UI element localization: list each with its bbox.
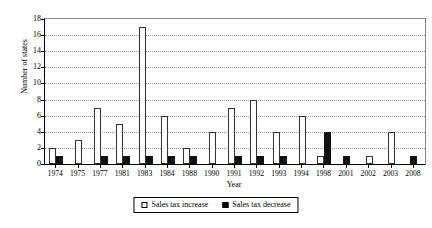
bar-sales-tax-increase	[94, 108, 101, 164]
y-axis-title: Number of states	[20, 7, 29, 127]
x-axis-tick-label: 1981	[111, 169, 133, 178]
x-axis-tick-label: 1994	[290, 169, 312, 178]
bar-sales-tax-increase	[317, 156, 324, 164]
bar-sales-tax-increase	[273, 132, 280, 164]
bar-group	[179, 19, 201, 164]
x-axis-tick-label: 1991	[223, 169, 245, 178]
bar-sales-tax-increase	[366, 156, 373, 164]
bar-group	[403, 19, 425, 164]
bar-sales-tax-increase	[161, 116, 168, 164]
x-axis-tick-label: 2003	[379, 169, 401, 178]
bar-group	[380, 19, 402, 164]
bar-sales-tax-increase	[228, 108, 235, 164]
bar-sales-tax-increase	[209, 132, 216, 164]
x-axis-tick-label: 1975	[66, 169, 88, 178]
bar-group	[269, 19, 291, 164]
bar-sales-tax-increase	[75, 140, 82, 164]
bar-sales-tax-increase	[49, 148, 56, 164]
bar-sales-tax-decrease	[235, 156, 242, 164]
bar-sales-tax-decrease	[101, 156, 108, 164]
x-axis-tick-label: 1998	[312, 169, 334, 178]
bar-sales-tax-decrease	[123, 156, 130, 164]
bar-sales-tax-increase	[388, 132, 395, 164]
bar-group	[112, 19, 134, 164]
x-axis-tick-label: 1977	[89, 169, 111, 178]
bar-sales-tax-decrease	[280, 156, 287, 164]
bar-group	[157, 19, 179, 164]
plot-area: 024681012141618	[44, 18, 426, 165]
bar-groups	[45, 19, 425, 164]
bar-group	[246, 19, 268, 164]
x-axis-tick-labels: 1974197519771981198319841988199019911992…	[44, 169, 424, 178]
bar-sales-tax-increase	[299, 116, 306, 164]
bar-group	[134, 19, 156, 164]
bar-group	[90, 19, 112, 164]
bar-sales-tax-decrease	[168, 156, 175, 164]
legend-item-increase: Sales tax increase	[141, 200, 208, 209]
x-axis-tick-label: 1983	[133, 169, 155, 178]
bar-group	[291, 19, 313, 164]
legend-item-decrease: Sales tax decrease	[222, 200, 290, 209]
bar-sales-tax-increase	[139, 27, 146, 164]
bar-sales-tax-increase	[116, 124, 123, 164]
bar-group	[336, 19, 358, 164]
chart-legend: Sales tax increase Sales tax decrease	[133, 197, 298, 213]
x-axis-tick-label: 2002	[357, 169, 379, 178]
bar-group	[224, 19, 246, 164]
bar-group	[358, 19, 380, 164]
x-axis-tick-label: 1984	[156, 169, 178, 178]
sales-tax-bar-chart: Number of states 024681012141618 1974197…	[0, 0, 432, 228]
x-axis-tick-label: 1974	[44, 169, 66, 178]
legend-label-decrease: Sales tax decrease	[232, 200, 290, 209]
bar-sales-tax-increase	[250, 100, 257, 164]
bar-group	[202, 19, 224, 164]
x-axis-title: Year	[44, 180, 424, 189]
x-axis-tick-label: 2001	[335, 169, 357, 178]
x-axis-tick-label: 1993	[268, 169, 290, 178]
black-square-icon	[222, 202, 228, 208]
white-square-icon	[141, 202, 147, 208]
bar-sales-tax-increase	[183, 148, 190, 164]
bar-group	[67, 19, 89, 164]
bar-sales-tax-decrease	[343, 156, 350, 164]
bar-sales-tax-decrease	[56, 156, 63, 164]
bar-group	[313, 19, 335, 164]
bar-sales-tax-decrease	[146, 156, 153, 164]
bar-sales-tax-decrease	[190, 156, 197, 164]
x-axis-tick-label: 1992	[245, 169, 267, 178]
legend-label-increase: Sales tax increase	[151, 200, 208, 209]
x-axis-tick-label: 1990	[201, 169, 223, 178]
x-axis-tick-label: 1988	[178, 169, 200, 178]
x-axis-tick-label: 2008	[402, 169, 424, 178]
bar-group	[45, 19, 67, 164]
bar-sales-tax-decrease	[324, 132, 331, 164]
bar-sales-tax-decrease	[410, 156, 417, 164]
bar-sales-tax-decrease	[257, 156, 264, 164]
